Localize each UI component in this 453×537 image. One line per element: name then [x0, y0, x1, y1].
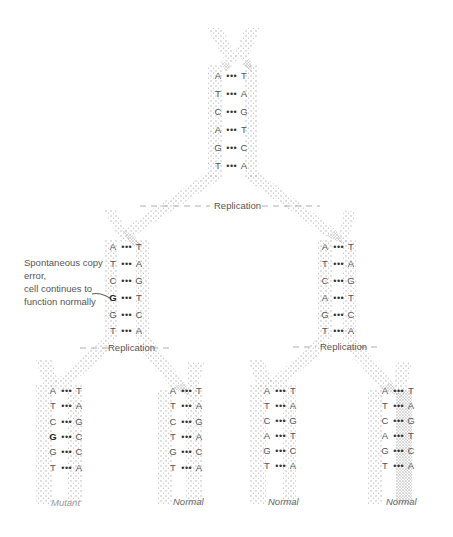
replication-label-1: Replication — [214, 200, 261, 211]
base-pair: C• • •G — [109, 275, 143, 286]
base-pair: A• • •T — [214, 124, 248, 135]
base-pair: T• • •A — [381, 400, 415, 411]
base-pair: G• • •C — [263, 445, 297, 456]
base-pair: A• • •T — [263, 430, 297, 441]
base-pair: A• • •T — [169, 385, 203, 396]
base-pair: G• • •C — [49, 446, 83, 457]
base-pair: T• • •A — [321, 325, 355, 336]
base-pair: A• • •T — [263, 385, 297, 396]
outcome-normal-label-1: Normal — [173, 496, 204, 507]
base-pair: T• • •A — [109, 258, 143, 269]
outcome-mutant-label: Mutant — [51, 497, 80, 508]
base-pair: C• • •G — [214, 106, 248, 117]
base-pair: T• • •A — [169, 431, 203, 442]
base-pair: T• • •A — [214, 160, 248, 171]
base-pair: G• • •C — [381, 445, 415, 456]
base-pair: A• • •T — [321, 292, 355, 303]
base-pair: T• • •A — [169, 462, 203, 473]
base-pair: T• • •A — [321, 258, 355, 269]
base-pair: C• • •G — [169, 416, 203, 427]
base-pair: T• • •A — [49, 462, 83, 473]
base-pair: T• • •A — [169, 400, 203, 411]
base-pair: T• • •A — [214, 88, 248, 99]
base-pair: A• • •T — [214, 70, 248, 81]
base-pair: G• • •C — [321, 309, 355, 320]
base-pair: G• • •C — [109, 309, 143, 320]
base-pair: G• • •C — [169, 446, 203, 457]
base-pair-mutant: G• • •C — [49, 431, 83, 442]
base-pair-copy-error: G• • •T — [109, 292, 143, 303]
copy-error-annotation: Spontaneous copy error, cell continues t… — [24, 256, 103, 308]
outcome-normal-label-2: Normal — [268, 496, 299, 507]
base-pair: A• • •T — [109, 241, 143, 252]
base-pair: T• • •A — [263, 460, 297, 471]
base-pair: C• • •G — [381, 415, 415, 426]
base-pair: T• • •A — [263, 400, 297, 411]
base-pair: A• • •T — [321, 241, 355, 252]
base-pair: A• • •T — [49, 385, 83, 396]
base-pair: A• • •T — [381, 385, 415, 396]
replication-label-2: Replication — [108, 342, 155, 353]
base-pair: C• • •G — [263, 415, 297, 426]
base-pair: C• • •G — [49, 416, 83, 427]
outcome-normal-label-3: Normal — [386, 496, 417, 507]
base-pair: G• • •C — [214, 142, 248, 153]
base-pair: T• • •A — [381, 460, 415, 471]
base-pair: A• • •T — [381, 430, 415, 441]
base-pair: T• • •A — [49, 400, 83, 411]
base-pair: C• • •G — [321, 275, 355, 286]
base-pair: T• • •A — [109, 325, 143, 336]
replication-label-3: Replication — [320, 341, 367, 352]
